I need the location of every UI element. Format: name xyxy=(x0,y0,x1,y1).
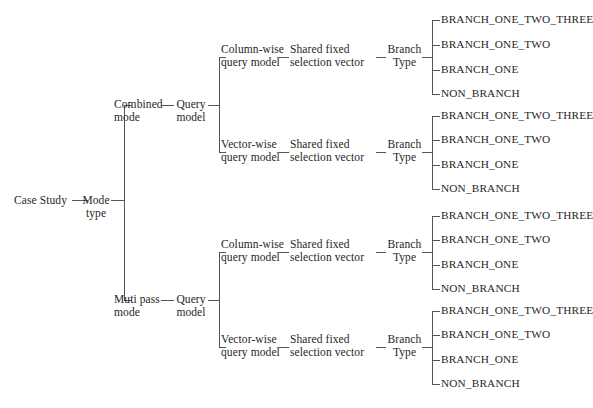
leaf-label: NON_BRANCH xyxy=(441,87,520,99)
node-selection-vector-2-line1: Shared fixed xyxy=(290,138,364,151)
leaf-label: BRANCH_ONE xyxy=(441,258,518,270)
node-branch-type-3[interactable]: Branch Type xyxy=(386,238,423,263)
node-muti-pass-mode[interactable]: Muti pass mode xyxy=(114,293,160,318)
node-column-wise-2-line2: query model xyxy=(221,251,284,264)
node-selection-vector-4[interactable]: Shared fixed selection vector xyxy=(290,333,364,358)
node-branch-type-3-line2: Type xyxy=(386,251,423,264)
node-combined-mode[interactable]: Combined mode xyxy=(114,98,163,123)
node-query-model-upper[interactable]: Query model xyxy=(174,98,208,123)
leaf-label: BRANCH_ONE xyxy=(441,158,518,170)
leaf-label: NON_BRANCH xyxy=(441,282,520,294)
node-query-model-lower-line1: Query xyxy=(174,293,208,306)
leaf-label: NON_BRANCH xyxy=(441,182,520,194)
node-vector-wise-2-line2: query model xyxy=(221,346,280,359)
node-selection-vector-1-line1: Shared fixed xyxy=(290,43,364,56)
leaf-node[interactable]: BRANCH_ONE_TWO xyxy=(441,234,550,246)
node-column-wise-query-model-1[interactable]: Column-wise query model xyxy=(221,43,284,68)
leaf-node[interactable]: BRANCH_ONE_TWO_THREE xyxy=(441,210,593,222)
leaf-node[interactable]: BRANCH_ONE_TWO xyxy=(441,329,550,341)
leaf-node[interactable]: NON_BRANCH xyxy=(441,378,520,390)
node-selection-vector-3[interactable]: Shared fixed selection vector xyxy=(290,238,364,263)
node-branch-type-1-line2: Type xyxy=(386,56,423,69)
node-branch-type-1[interactable]: Branch Type xyxy=(386,43,423,68)
node-mode-type-line1: Mode xyxy=(80,194,112,207)
node-column-wise-2-line1: Column-wise xyxy=(221,238,284,251)
leaf-label: BRANCH_ONE_TWO_THREE xyxy=(441,209,593,221)
node-vector-wise-1-line1: Vector-wise xyxy=(221,138,280,151)
node-column-wise-1-line2: query model xyxy=(221,56,284,69)
leaf-node[interactable]: NON_BRANCH xyxy=(441,88,520,100)
node-query-model-lower-line2: model xyxy=(174,306,208,319)
node-branch-type-1-line1: Branch xyxy=(386,43,423,56)
node-muti-pass-mode-line2: mode xyxy=(114,306,160,319)
node-case-study[interactable]: Case Study xyxy=(14,194,67,207)
leaf-node[interactable]: BRANCH_ONE_TWO_THREE xyxy=(441,305,593,317)
leaf-label: NON_BRANCH xyxy=(441,377,520,389)
node-vector-wise-query-model-1[interactable]: Vector-wise query model xyxy=(221,138,280,163)
node-selection-vector-1[interactable]: Shared fixed selection vector xyxy=(290,43,364,68)
node-column-wise-query-model-2[interactable]: Column-wise query model xyxy=(221,238,284,263)
node-branch-type-4[interactable]: Branch Type xyxy=(386,333,423,358)
node-selection-vector-1-line2: selection vector xyxy=(290,56,364,69)
leaf-label: BRANCH_ONE_TWO xyxy=(441,233,550,245)
node-branch-type-3-line1: Branch xyxy=(386,238,423,251)
node-selection-vector-4-line2: selection vector xyxy=(290,346,364,359)
leaf-node[interactable]: BRANCH_ONE xyxy=(441,64,518,76)
leaf-node[interactable]: BRANCH_ONE_TWO xyxy=(441,134,550,146)
leaf-label: BRANCH_ONE_TWO xyxy=(441,133,550,145)
node-branch-type-2[interactable]: Branch Type xyxy=(386,138,423,163)
node-query-model-lower[interactable]: Query model xyxy=(174,293,208,318)
leaf-node[interactable]: BRANCH_ONE_TWO_THREE xyxy=(441,110,593,122)
node-branch-type-2-line1: Branch xyxy=(386,138,423,151)
node-selection-vector-3-line2: selection vector xyxy=(290,251,364,264)
node-selection-vector-2-line2: selection vector xyxy=(290,151,364,164)
node-query-model-upper-line2: model xyxy=(174,111,208,124)
node-muti-pass-mode-line1: Muti pass xyxy=(114,293,160,306)
node-selection-vector-4-line1: Shared fixed xyxy=(290,333,364,346)
leaf-node[interactable]: NON_BRANCH xyxy=(441,183,520,195)
node-case-study-label: Case Study xyxy=(14,194,67,206)
node-query-model-upper-line1: Query xyxy=(174,98,208,111)
leaf-label: BRANCH_ONE xyxy=(441,63,518,75)
node-vector-wise-1-line2: query model xyxy=(221,151,280,164)
node-vector-wise-2-line1: Vector-wise xyxy=(221,333,280,346)
leaf-node[interactable]: NON_BRANCH xyxy=(441,283,520,295)
leaf-label: BRANCH_ONE_TWO_THREE xyxy=(441,304,593,316)
figure-caption xyxy=(0,396,562,408)
leaf-label: BRANCH_ONE_TWO_THREE xyxy=(441,13,593,25)
node-branch-type-4-line1: Branch xyxy=(386,333,423,346)
leaf-node[interactable]: BRANCH_ONE_TWO xyxy=(441,39,550,51)
node-column-wise-1-line1: Column-wise xyxy=(221,43,284,56)
leaf-label: BRANCH_ONE xyxy=(441,353,518,365)
node-branch-type-4-line2: Type xyxy=(386,346,423,359)
leaf-label: BRANCH_ONE_TWO xyxy=(441,328,550,340)
node-mode-type[interactable]: Mode type xyxy=(80,194,112,219)
node-vector-wise-query-model-2[interactable]: Vector-wise query model xyxy=(221,333,280,358)
node-combined-mode-line2: mode xyxy=(114,111,163,124)
leaf-node[interactable]: BRANCH_ONE xyxy=(441,354,518,366)
leaf-node[interactable]: BRANCH_ONE xyxy=(441,259,518,271)
node-combined-mode-line1: Combined xyxy=(114,98,163,111)
node-mode-type-line2: type xyxy=(80,207,112,220)
node-selection-vector-2[interactable]: Shared fixed selection vector xyxy=(290,138,364,163)
leaf-label: BRANCH_ONE_TWO_THREE xyxy=(441,109,593,121)
leaf-node[interactable]: BRANCH_ONE xyxy=(441,159,518,171)
leaf-node[interactable]: BRANCH_ONE_TWO_THREE xyxy=(441,14,593,26)
node-branch-type-2-line2: Type xyxy=(386,151,423,164)
leaf-label: BRANCH_ONE_TWO xyxy=(441,38,550,50)
node-selection-vector-3-line1: Shared fixed xyxy=(290,238,364,251)
